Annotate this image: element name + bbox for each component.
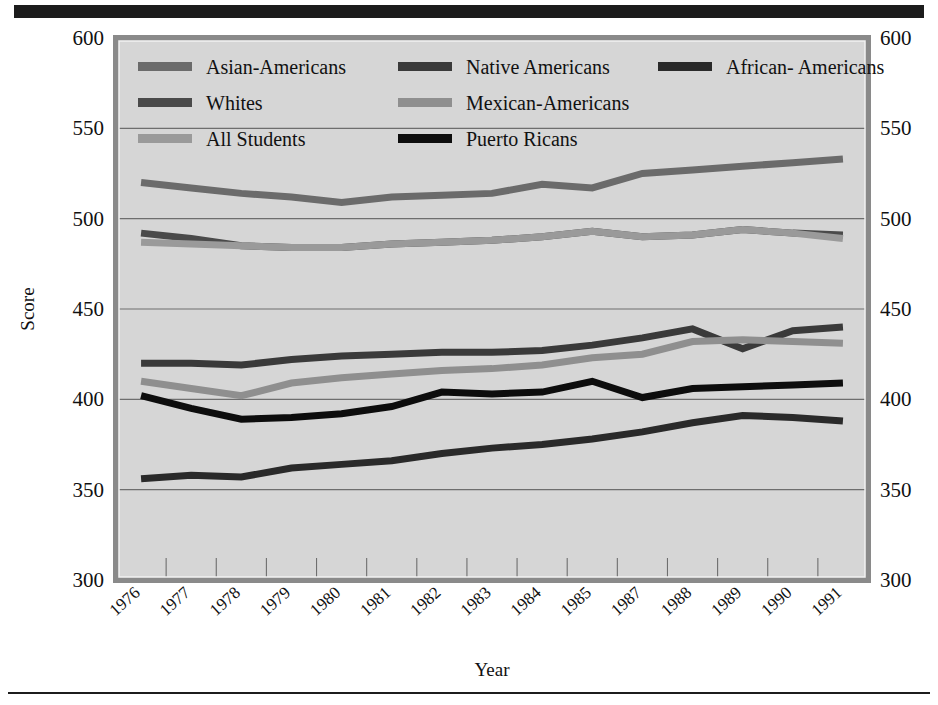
- x-tick-label: 1981: [356, 583, 394, 620]
- x-tick-label: 1983: [457, 583, 495, 620]
- legend-swatch: [138, 134, 192, 143]
- y-tick-label-left: 350: [73, 478, 105, 502]
- legend-swatch: [138, 98, 192, 107]
- x-tick-label: 1976: [106, 583, 144, 620]
- legend-swatch: [398, 98, 452, 107]
- y-axis-labels-right: 300350400450500550600: [880, 26, 912, 592]
- x-tick-label: 1982: [407, 583, 445, 620]
- x-axis-title: Year: [474, 659, 510, 680]
- y-axis-labels-left: 300350400450500550600: [73, 26, 105, 592]
- legend-label: Puerto Ricans: [466, 128, 578, 150]
- x-tick-label: 1984: [507, 583, 545, 620]
- y-tick-label-right: 500: [880, 207, 912, 231]
- legend-label: All Students: [206, 128, 306, 150]
- x-tick-label: 1979: [256, 583, 294, 620]
- x-tick-label: 1980: [306, 583, 344, 620]
- x-tick-label: 1977: [156, 583, 194, 620]
- x-axis-tick-labels: 1976197719781979198019811982198319841985…: [106, 583, 846, 620]
- x-tick-label: 1985: [557, 583, 595, 620]
- legend-label: African- Americans: [726, 56, 884, 78]
- y-axis-title: Score: [17, 287, 38, 330]
- bottom-rule: [8, 692, 930, 694]
- y-tick-label-right: 600: [880, 26, 912, 50]
- x-tick-label: 1989: [707, 583, 745, 620]
- y-tick-label-right: 550: [880, 116, 912, 140]
- legend-label: Whites: [206, 92, 263, 114]
- y-tick-label-left: 550: [73, 116, 105, 140]
- y-tick-label-left: 400: [73, 387, 105, 411]
- y-tick-label-left: 500: [73, 207, 105, 231]
- legend-swatch: [138, 62, 192, 71]
- chart-title-cropped: [14, 0, 924, 4]
- x-tick-label: 1987: [607, 583, 645, 620]
- x-tick-label: 1978: [206, 583, 244, 620]
- y-tick-label-right: 300: [880, 568, 912, 592]
- legend-swatch: [658, 62, 712, 71]
- y-tick-label-left: 450: [73, 297, 105, 321]
- plot-area-wrapper: 300350400450500550600 300350400450500550…: [0, 24, 938, 684]
- chart-figure: 300350400450500550600 300350400450500550…: [0, 0, 938, 705]
- y-tick-label-right: 400: [880, 387, 912, 411]
- legend-label: Asian-Americans: [206, 56, 346, 78]
- x-tick-label: 1990: [757, 583, 795, 620]
- y-tick-label-left: 600: [73, 26, 105, 50]
- title-bar: [14, 5, 924, 18]
- legend-label: Mexican-Americans: [466, 92, 629, 114]
- legend-swatch: [398, 62, 452, 71]
- x-tick-label: 1991: [808, 583, 846, 620]
- y-tick-label-right: 350: [880, 478, 912, 502]
- x-tick-label: 1988: [657, 583, 695, 620]
- legend-swatch: [398, 134, 452, 143]
- legend-label: Native Americans: [466, 56, 610, 78]
- y-tick-label-right: 450: [880, 297, 912, 321]
- y-tick-label-left: 300: [73, 568, 105, 592]
- line-chart: 300350400450500550600 300350400450500550…: [0, 24, 938, 684]
